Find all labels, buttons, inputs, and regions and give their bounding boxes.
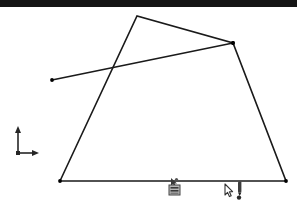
sketch-geometry[interactable] (0, 7, 297, 216)
vertex-marker[interactable] (58, 179, 62, 183)
geometry-group (52, 16, 286, 181)
vertex-marker[interactable] (284, 179, 288, 183)
cursor-arrow-icon[interactable] (224, 183, 235, 198)
quadrilateral-outline[interactable] (60, 16, 286, 181)
stylus-icon[interactable] (235, 181, 245, 200)
crossing-line[interactable] (52, 43, 233, 80)
window-titlebar (0, 0, 297, 7)
vertex-marker[interactable] (50, 78, 54, 82)
drawing-canvas[interactable] (0, 7, 297, 216)
application-window (0, 0, 297, 216)
origin-axis-indicator (12, 125, 40, 157)
vertex-markers (50, 41, 288, 183)
vertex-marker[interactable] (231, 41, 235, 45)
device-icon[interactable] (168, 184, 181, 196)
